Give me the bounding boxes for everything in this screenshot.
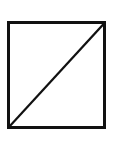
figure-canvas: Square with diagonal	[0, 0, 113, 145]
square-with-diagonal-figure: Square with diagonal	[0, 0, 113, 145]
